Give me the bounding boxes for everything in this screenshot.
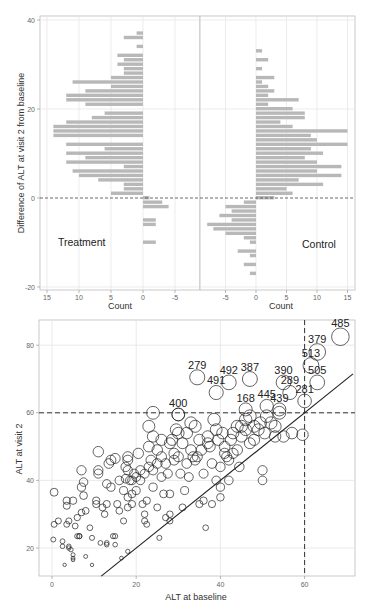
- histogram-bar: [256, 120, 280, 123]
- histogram-bar: [256, 160, 317, 163]
- histogram-bar: [256, 152, 323, 155]
- histogram-bar: [143, 218, 156, 221]
- x-tick-label: 5: [285, 294, 289, 301]
- y-tick-label: 20: [27, 106, 35, 113]
- histogram-bar: [256, 58, 268, 61]
- histogram-bar: [66, 98, 143, 101]
- histogram-bar: [226, 205, 257, 208]
- control-x-axis-label: Count: [269, 301, 294, 311]
- point-id-label: 445: [258, 388, 276, 400]
- scatter-x-ticks: 0204060: [50, 576, 309, 588]
- treatment-y-ticks: -2002040: [25, 17, 40, 291]
- histogram-bar: [207, 223, 256, 226]
- x-tick-label: 10: [313, 294, 321, 301]
- y-tick-label: 40: [26, 477, 34, 484]
- y-tick-label: 0: [31, 195, 35, 202]
- treatment-histogram-panel: Treatment 151050-5 -2002040 Count Differ…: [16, 16, 200, 311]
- histogram-bar: [256, 76, 274, 79]
- histogram-bar: [250, 241, 256, 244]
- histogram-bar: [66, 160, 143, 163]
- histogram-bar: [92, 116, 143, 119]
- histogram-bar: [226, 232, 257, 235]
- control-panel-label: Control: [302, 238, 336, 250]
- scatter-x-axis-label: ALT at baseline: [165, 592, 227, 602]
- histogram-bar: [256, 134, 311, 137]
- histogram-bar: [256, 103, 268, 106]
- histogram-bar: [256, 174, 341, 177]
- histogram-bar: [66, 152, 143, 155]
- histogram-bar: [143, 241, 156, 244]
- treatment-x-ticks: 151050-5: [43, 290, 178, 301]
- histogram-bar: [256, 178, 299, 181]
- histogram-bar: [213, 227, 256, 230]
- histogram-bar: [117, 54, 143, 57]
- histogram-bar: [66, 94, 143, 97]
- scatter-plot-panel: 4853795135053903874922794912892814001684…: [14, 317, 355, 602]
- histogram-bar: [256, 156, 305, 159]
- histogram-bar: [53, 125, 143, 128]
- histogram-bar: [111, 192, 143, 195]
- histogram-bar: [143, 205, 169, 208]
- histogram-bar: [256, 143, 348, 146]
- histogram-bar: [256, 94, 268, 97]
- x-tick-label: 40: [217, 581, 225, 588]
- histogram-bar: [256, 138, 317, 141]
- scatter-y-axis-label: ALT at visit 2: [14, 423, 24, 474]
- histogram-bar: [219, 214, 256, 217]
- histogram-bar: [143, 223, 156, 226]
- y-tick-label: -20: [25, 284, 35, 291]
- histogram-bar: [124, 165, 143, 168]
- x-tick-label: 15: [344, 294, 352, 301]
- control-histogram-panel: Control -5051015 Count: [200, 16, 355, 311]
- histogram-bar: [256, 187, 287, 190]
- histogram-bar: [256, 192, 293, 195]
- histogram-bar: [256, 169, 317, 172]
- histogram-bar: [124, 71, 143, 74]
- point-id-label: 400: [169, 397, 187, 409]
- histogram-bar: [232, 218, 256, 221]
- histogram-bar: [66, 120, 143, 123]
- histogram-bar: [256, 80, 262, 83]
- point-id-label: 168: [236, 392, 254, 404]
- histogram-bar: [256, 129, 348, 132]
- histogram-bar: [137, 31, 143, 34]
- histogram-y-axis-label: Difference of ALT at visit 2 from baseli…: [16, 73, 26, 234]
- y-tick-label: 20: [26, 545, 34, 552]
- histogram-bar: [105, 111, 143, 114]
- point-id-label: 513: [302, 347, 320, 359]
- histogram-bar: [250, 254, 256, 257]
- histogram-bar: [244, 263, 256, 266]
- histogram-bar: [124, 67, 143, 70]
- histogram-bar: [98, 178, 143, 181]
- scatter-y-ticks: 20406080: [26, 342, 39, 552]
- histogram-bar: [256, 147, 311, 150]
- histogram-bar: [124, 36, 143, 39]
- point-id-label: 505: [308, 364, 326, 376]
- y-tick-label: 80: [26, 342, 34, 349]
- histogram-bar: [256, 107, 293, 110]
- x-tick-label: 60: [301, 581, 309, 588]
- x-tick-label: 0: [141, 294, 145, 301]
- histogram-bar: [256, 89, 274, 92]
- histogram-bar: [117, 63, 143, 66]
- x-tick-label: -5: [172, 294, 178, 301]
- histogram-bar: [124, 187, 143, 190]
- histogram-bar: [85, 89, 143, 92]
- histogram-bar: [53, 134, 143, 137]
- histogram-bar: [124, 183, 143, 186]
- histogram-bar: [66, 143, 143, 146]
- figure: Treatment 151050-5 -2002040 Count Differ…: [0, 0, 370, 613]
- point-id-label: 491: [207, 374, 225, 386]
- histogram-bar: [256, 98, 299, 101]
- histogram-bar: [256, 165, 341, 168]
- point-id-label: 379: [308, 333, 326, 345]
- x-tick-label: -5: [222, 294, 228, 301]
- x-tick-label: 15: [43, 294, 51, 301]
- histogram-bar: [250, 272, 256, 275]
- histogram-bar: [256, 183, 323, 186]
- y-tick-label: 40: [27, 17, 35, 24]
- histogram-bar: [232, 209, 256, 212]
- histogram-bar: [73, 169, 143, 172]
- histogram-bar: [85, 156, 143, 159]
- treatment-x-axis-label: Count: [108, 301, 133, 311]
